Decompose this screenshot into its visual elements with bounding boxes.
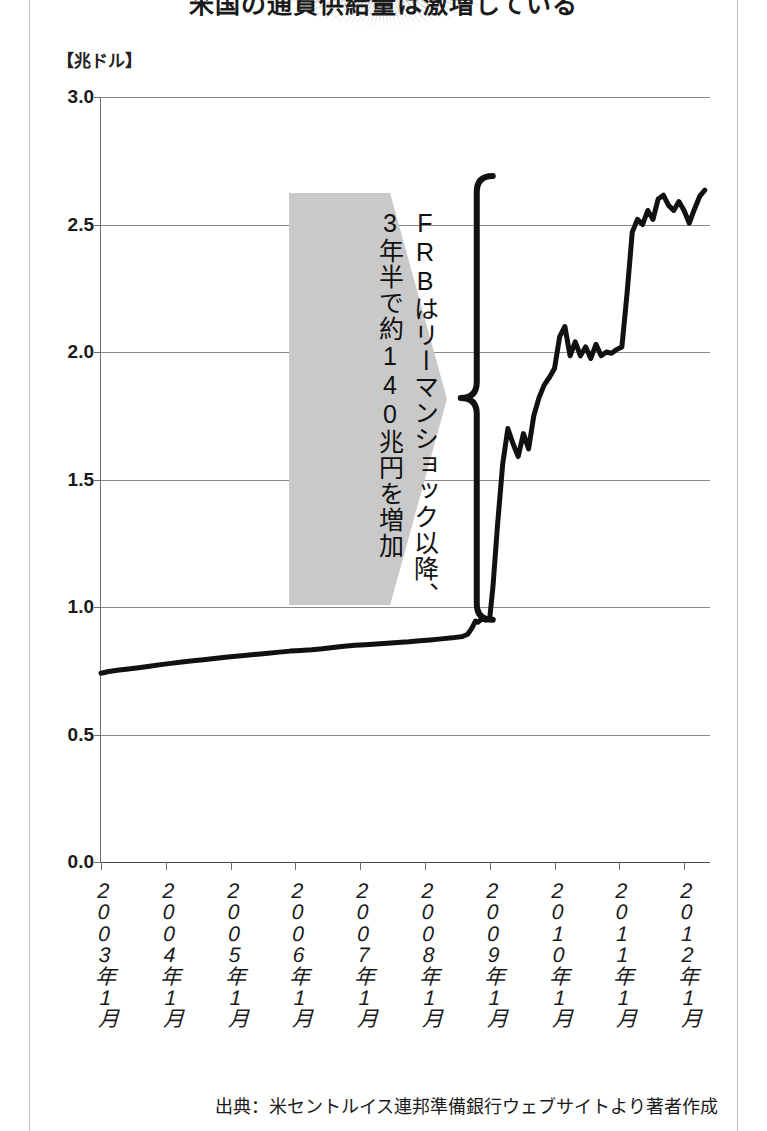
x-axis-tick-label: 2006年1月 (278, 880, 313, 1030)
chart-page: 米国の通貨供給量は激増している 【兆ドル】 0.00.51.01.52.02.5… (0, 0, 767, 1131)
x-axis-tick-label: 2009年1月 (472, 880, 507, 1030)
x-axis-tick-label: 2004年1月 (148, 880, 183, 1030)
x-axis-tick (295, 862, 296, 870)
page-title: 米国の通貨供給量は激増している (30, 0, 737, 20)
y-axis-tick (94, 862, 101, 863)
y-axis-tick (94, 352, 101, 353)
page-border-left (29, 0, 30, 1131)
x-axis-tick (619, 862, 620, 870)
x-axis-tick-label: 2011年1月 (602, 880, 637, 1030)
x-axis-tick (555, 862, 556, 870)
x-axis-tick-label: 2007年1月 (343, 880, 378, 1030)
y-axis-tick (94, 225, 101, 226)
x-axis-tick-label: 2008年1月 (407, 880, 442, 1030)
x-axis-tick (166, 862, 167, 870)
x-axis-tick-label: 2005年1月 (213, 880, 248, 1030)
y-axis-unit-label: 【兆ドル】 (57, 47, 142, 72)
x-axis-tick (684, 862, 685, 870)
title-band: 米国の通貨供給量は激増している (30, 0, 737, 30)
y-axis-tick-label: 1.0 (46, 597, 94, 616)
x-axis-tick-labels: 2003年1月2004年1月2005年1月2006年1月2007年1月2008年… (101, 880, 741, 1040)
callout-line-2: 3年半で約140兆円を増加 (377, 209, 402, 559)
x-axis-tick (360, 862, 361, 870)
y-axis-tick-label: 2.5 (46, 215, 94, 234)
gridline (101, 97, 710, 98)
x-axis-tick (425, 862, 426, 870)
x-axis-tick (490, 862, 491, 870)
x-axis-tick-label: 2010年1月 (537, 880, 572, 1030)
y-axis-tick-label: 0.5 (46, 725, 94, 744)
source-note: 出典：米セントルイス連邦準備銀行ウェブサイトより著者作成 (30, 1092, 730, 1118)
y-axis-tick (94, 97, 101, 98)
y-axis-tick-label: 0.0 (46, 852, 94, 871)
x-axis-tick (231, 862, 232, 870)
y-axis-tick (94, 480, 101, 481)
callout-line-1: FRBはリーマンショック以降、 (412, 209, 437, 608)
y-axis-tick-labels: 0.00.51.01.52.02.53.0 (38, 97, 94, 862)
callout-text: FRBはリーマンショック以降、 3年半で約140兆円を増加 (289, 193, 447, 605)
y-axis-tick (94, 607, 101, 608)
gridline (101, 607, 710, 608)
y-axis-tick-label: 3.0 (46, 87, 94, 106)
y-axis-tick (94, 735, 101, 736)
y-axis-tick-label: 2.0 (46, 342, 94, 361)
x-axis-tick (101, 862, 102, 870)
x-axis-tick-label: 2003年1月 (83, 880, 118, 1030)
x-axis-tick-label: 2012年1月 (666, 880, 701, 1030)
y-axis-tick-label: 1.5 (46, 470, 94, 489)
gridline (101, 735, 710, 736)
